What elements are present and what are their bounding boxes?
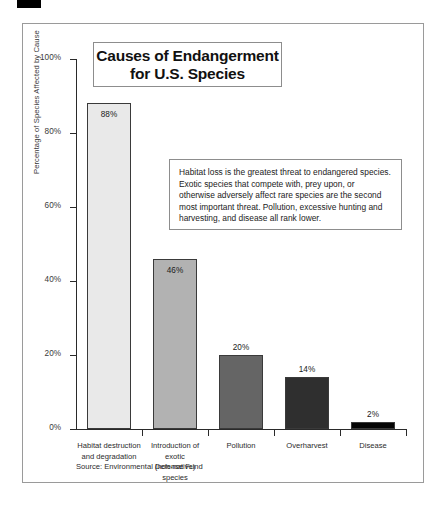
x-axis-category-label: Habitat destructionand degradation xyxy=(76,441,142,462)
x-axis-category-label-line: Introduction of exotic xyxy=(142,441,208,462)
bar: 14% xyxy=(285,377,329,429)
bar: 88% xyxy=(87,103,131,429)
x-axis-tick xyxy=(208,429,209,436)
chart-figure-frame: Causes of Endangerment for U.S. Species … xyxy=(22,23,424,483)
x-axis-tick xyxy=(340,429,341,436)
bar: 20% xyxy=(219,355,263,429)
bar-value-label: 20% xyxy=(220,343,262,352)
bar-value-label: 46% xyxy=(154,266,196,275)
x-axis-category-label-line: Habitat destruction xyxy=(76,441,142,452)
x-axis-tick xyxy=(142,429,143,436)
bar-value-label: 14% xyxy=(286,365,328,374)
plot-area: Percentage of Species Affected by Cause … xyxy=(76,59,406,429)
x-axis-category-label: Overharvest xyxy=(274,441,340,452)
x-axis-category-label-line: and degradation xyxy=(76,452,142,463)
y-axis-tick: 80% xyxy=(70,133,76,134)
y-axis-tick: 60% xyxy=(70,207,76,208)
x-axis-category-label-line: Pollution xyxy=(208,441,274,452)
bar: 46% xyxy=(153,259,197,429)
x-axis-line xyxy=(76,429,406,430)
bar-value-label: 2% xyxy=(352,410,394,419)
y-axis-tick-label: 40% xyxy=(45,275,61,284)
y-axis-tick-label: 0% xyxy=(49,423,61,432)
y-axis-tick: 100% xyxy=(70,59,76,60)
y-axis-tick-label: 20% xyxy=(45,349,61,358)
y-axis-tick-label: 100% xyxy=(40,53,61,62)
y-axis-line xyxy=(76,59,77,430)
x-axis-category-label-line: Overharvest xyxy=(274,441,340,452)
x-axis-category-label: Pollution xyxy=(208,441,274,452)
x-axis-category-label: Disease xyxy=(340,441,406,452)
source-credit: Source: Environmental Defense Fund xyxy=(76,462,203,471)
y-axis-tick: 0% xyxy=(70,429,76,430)
y-axis-tick-label: 80% xyxy=(45,127,61,136)
x-axis-tick xyxy=(274,429,275,436)
y-axis-tick: 40% xyxy=(70,281,76,282)
x-axis-tick xyxy=(406,429,407,436)
x-axis-category-label-line: Disease xyxy=(340,441,406,452)
y-axis-title: Percentage of Species Affected by Cause xyxy=(32,0,41,174)
y-axis-tick-label: 60% xyxy=(45,201,61,210)
y-axis-tick: 20% xyxy=(70,355,76,356)
bar: 2% xyxy=(351,422,395,429)
bar-value-label: 88% xyxy=(88,110,130,119)
